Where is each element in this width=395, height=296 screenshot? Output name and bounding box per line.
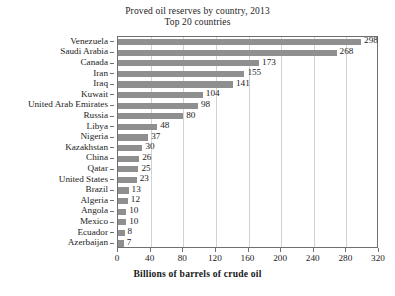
category-tick-mark xyxy=(110,137,114,138)
x-tick-mark xyxy=(378,248,379,252)
bar xyxy=(118,187,129,193)
chart-title: Proved oil reserves by country, 2013 xyxy=(0,6,395,17)
category-label-china: China xyxy=(86,152,108,162)
bar-value-label: 98 xyxy=(201,99,210,109)
bar-value-label: 155 xyxy=(247,67,261,77)
chart-subtitle: Top 20 countries xyxy=(0,17,395,28)
bar-row: 98 xyxy=(118,101,377,112)
x-tick-mark xyxy=(248,248,249,252)
category-tick-mark xyxy=(110,211,114,212)
x-tick-label: 0 xyxy=(115,253,120,263)
x-axis-ticks: 04080120160200240280320 xyxy=(117,248,378,266)
plot-area: 2982681731551411049880483730262523131210… xyxy=(117,36,378,248)
bar-value-label: 10 xyxy=(129,205,138,215)
x-tick-label: 240 xyxy=(306,253,320,263)
bar xyxy=(118,60,259,66)
bar-row: 30 xyxy=(118,143,377,154)
category-tick-mark xyxy=(110,243,114,244)
category-label-ecuador: Ecuador xyxy=(77,227,108,237)
category-label-angola: Angola xyxy=(81,205,108,215)
bar xyxy=(118,240,124,246)
bar-row: 13 xyxy=(118,185,377,196)
x-axis-title: Billions of barrels of crude oil xyxy=(0,268,395,279)
category-tick-mark xyxy=(110,190,114,191)
category-label-iran: Iran xyxy=(93,68,108,78)
bar-value-label: 25 xyxy=(141,163,150,173)
bar xyxy=(118,177,137,183)
bar xyxy=(118,134,148,140)
category-label-united-arab-emirates: United Arab Emirates xyxy=(28,99,108,109)
bar-row: 298 xyxy=(118,37,377,48)
x-tick-label: 200 xyxy=(273,253,287,263)
bar-value-label: 23 xyxy=(140,173,149,183)
bar xyxy=(118,156,139,162)
category-tick-mark xyxy=(110,158,114,159)
bar-value-label: 8 xyxy=(128,226,133,236)
bar-value-label: 12 xyxy=(131,194,140,204)
bar-row: 10 xyxy=(118,217,377,228)
bar-row: 37 xyxy=(118,132,377,143)
category-label-russia: Russia xyxy=(83,110,108,120)
x-tick-label: 280 xyxy=(338,253,352,263)
category-tick-mark xyxy=(110,126,114,127)
x-tick-label: 120 xyxy=(208,253,222,263)
bar-value-label: 48 xyxy=(160,120,169,130)
category-label-brazil: Brazil xyxy=(86,184,108,194)
category-tick-mark xyxy=(110,147,114,148)
category-tick-mark xyxy=(110,63,114,64)
category-tick-mark xyxy=(110,52,114,53)
bar-value-label: 268 xyxy=(340,46,354,56)
bar xyxy=(118,166,138,172)
category-label-azerbaijan: Azerbaijan xyxy=(68,237,108,247)
x-tick-label: 80 xyxy=(178,253,187,263)
category-tick-mark xyxy=(110,94,114,95)
category-label-kazakhstan: Kazakhstan xyxy=(65,142,108,152)
bar xyxy=(118,81,233,87)
bar-value-label: 173 xyxy=(262,57,276,67)
bar-value-label: 298 xyxy=(364,35,378,45)
bar-value-label: 26 xyxy=(142,152,151,162)
bar-value-label: 141 xyxy=(236,78,250,88)
bar-row: 80 xyxy=(118,111,377,122)
category-tick-mark xyxy=(110,41,114,42)
bar-value-label: 37 xyxy=(151,131,160,141)
bar xyxy=(118,50,337,56)
category-label-qatar: Qatar xyxy=(88,163,108,173)
category-tick-mark xyxy=(110,73,114,74)
bar xyxy=(118,71,244,77)
bar-value-label: 104 xyxy=(206,88,220,98)
category-axis-labels: VenezuelaSaudi ArabiaCanadaIranIraqKuwai… xyxy=(0,36,114,248)
bar-row: 25 xyxy=(118,164,377,175)
bar-value-label: 80 xyxy=(186,110,195,120)
category-tick-mark xyxy=(110,116,114,117)
bar-series: 2982681731551411049880483730262523131210… xyxy=(118,37,377,247)
bar xyxy=(118,39,361,45)
bar-value-label: 7 xyxy=(127,237,132,247)
x-tick-mark xyxy=(280,248,281,252)
bar-row: 141 xyxy=(118,79,377,90)
category-label-united-states: United States xyxy=(59,174,108,184)
category-tick-mark xyxy=(110,169,114,170)
category-label-nigeria: Nigeria xyxy=(80,131,108,141)
bar-value-label: 13 xyxy=(132,184,141,194)
bar-row: 23 xyxy=(118,175,377,186)
category-tick-mark xyxy=(110,179,114,180)
bar-row: 8 xyxy=(118,228,377,239)
chart-title-block: Proved oil reserves by country, 2013 Top… xyxy=(0,6,395,28)
category-tick-mark xyxy=(110,200,114,201)
category-tick-mark xyxy=(110,105,114,106)
bar xyxy=(118,124,157,130)
category-label-iraq: Iraq xyxy=(93,78,108,88)
category-label-canada: Canada xyxy=(80,57,108,67)
bar-value-label: 10 xyxy=(129,216,138,226)
x-tick-mark xyxy=(313,248,314,252)
bar-row: 12 xyxy=(118,196,377,207)
category-label-kuwait: Kuwait xyxy=(81,89,108,99)
category-label-libya: Libya xyxy=(87,121,108,131)
category-tick-mark xyxy=(110,222,114,223)
bar-value-label: 30 xyxy=(145,141,154,151)
bar-row: 10 xyxy=(118,207,377,218)
x-tick-mark xyxy=(150,248,151,252)
category-label-saudi-arabia: Saudi Arabia xyxy=(60,46,108,56)
x-tick-label: 320 xyxy=(371,253,385,263)
